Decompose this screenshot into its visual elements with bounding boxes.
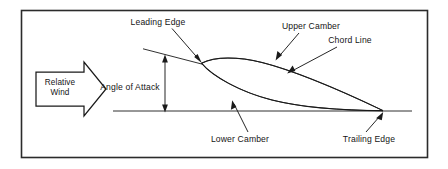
relative-wind-arrow-shape	[36, 62, 106, 116]
relative-wind-arrow: Relative Wind	[36, 62, 106, 116]
upper-camber-leader-line	[279, 33, 300, 57]
upper-camber-arrowhead	[276, 51, 283, 60]
relative-wind-label-line2: Wind	[50, 88, 69, 97]
lower-camber-label: Lower Camber	[211, 134, 269, 144]
chord-line-label: Chord Line	[328, 35, 372, 45]
angle-of-attack-label: Angle of Attack	[100, 82, 160, 92]
leading-edge-callout: Leading Edge	[131, 17, 202, 63]
angle-of-attack-arrowhead-up	[162, 55, 168, 63]
airfoil-body	[202, 58, 384, 111]
chord-line-callout: Chord Line	[287, 35, 372, 74]
relative-wind-label-line1: Relative	[45, 78, 76, 87]
leading-edge-label: Leading Edge	[131, 17, 186, 27]
angle-of-attack-indicator: Angle of Attack	[100, 55, 168, 113]
upper-camber-label: Upper Camber	[282, 21, 340, 31]
chord-line-leader-line	[291, 47, 337, 72]
leading-edge-leader-line	[172, 29, 199, 60]
airfoil-diagram-svg: Relative Wind Angle of Attack Leading Ed…	[0, 0, 448, 169]
lower-camber-leader-line	[234, 104, 248, 132]
trailing-edge-label: Trailing Edge	[343, 134, 395, 144]
airfoil-diagram: Relative Wind Angle of Attack Leading Ed…	[0, 0, 448, 169]
trailing-edge-callout: Trailing Edge	[343, 112, 395, 144]
lower-camber-callout: Lower Camber	[211, 100, 269, 144]
lower-camber-arrowhead	[231, 100, 237, 110]
